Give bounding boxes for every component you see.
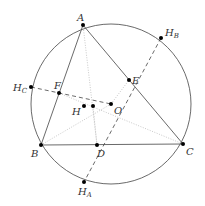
label-d: D: [96, 148, 105, 159]
label-b: B: [30, 148, 38, 159]
altitude-a-dotted: [83, 25, 97, 145]
o-to-e-dotted: [111, 80, 129, 104]
diagram-canvas: A B C D E F H O HA HB HC: [0, 0, 205, 206]
dashed-lines: [31, 38, 161, 182]
point-h-second: [91, 104, 95, 108]
hb-to-ha-dashed: [84, 38, 161, 182]
point-c: [181, 142, 185, 146]
h-to-d-dotted: [93, 106, 97, 145]
label-ha: HA: [77, 186, 92, 199]
point-hc: [29, 85, 33, 89]
side-ab: [41, 25, 83, 145]
point-e: [127, 78, 131, 82]
label-c: C: [186, 146, 194, 157]
hc-to-o-dashed: [31, 87, 111, 104]
label-h: H: [71, 106, 81, 117]
c-to-f-dotted: [59, 93, 183, 144]
point-f: [57, 91, 61, 95]
label-e: E: [131, 75, 140, 86]
label-hc: HC: [12, 82, 28, 95]
label-a: A: [76, 12, 84, 23]
labels: A B C D E F H O HA HB HC: [12, 12, 194, 199]
geometry-diagram: A B C D E F H O HA HB HC: [0, 0, 205, 206]
point-h: [82, 104, 86, 108]
point-ha: [82, 180, 86, 184]
side-bc: [41, 144, 183, 145]
point-b: [39, 143, 43, 147]
point-hb: [159, 36, 163, 40]
label-f: F: [53, 80, 62, 91]
label-hb: HB: [164, 27, 179, 40]
point-d: [95, 143, 99, 147]
triangle-abc: [41, 25, 183, 145]
point-a: [81, 23, 85, 27]
point-o: [109, 102, 113, 106]
label-o: O: [114, 105, 122, 116]
